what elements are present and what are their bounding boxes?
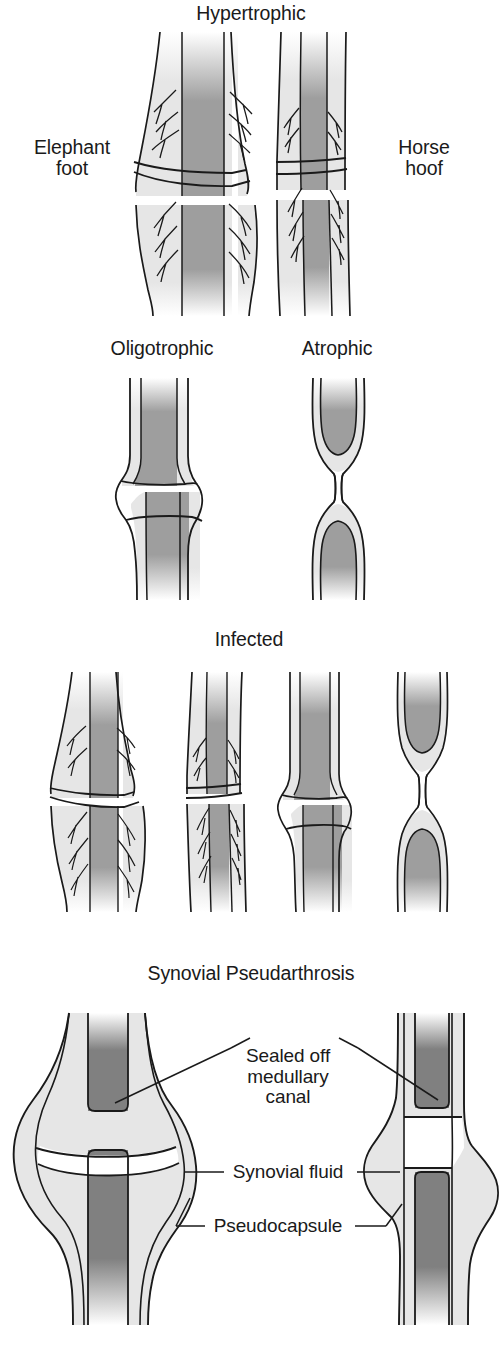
section-title-infected: Infected (189, 629, 309, 650)
atrophic-bone (312, 378, 364, 600)
nonunion-classification-illustration (0, 0, 502, 1354)
callout-pseudocapsule: Pseudocapsule (203, 1216, 353, 1237)
infected-atrophic (397, 672, 447, 912)
infected-horse-hoof (186, 672, 246, 912)
infected-elephant-foot (50, 672, 145, 912)
horse-hoof-bone (276, 32, 350, 316)
callout-synovial-fluid: Synovial fluid (222, 1162, 354, 1183)
section-title-atrophic: Atrophic (282, 338, 392, 359)
section-title-synovial-pseudarthrosis: Synovial Pseudarthrosis (111, 963, 391, 984)
synovial-ap-view (14, 1013, 197, 1325)
synovial-lateral-view (364, 1013, 498, 1325)
section-title-oligotrophic: Oligotrophic (92, 338, 232, 359)
section-title-hypertrophic: Hypertrophic (0, 3, 502, 24)
infected-group (50, 672, 448, 912)
callout-sealed-off-medullary-canal: Sealed off medullary canal (218, 1046, 358, 1108)
infected-oligotrophic (278, 672, 352, 912)
hypertrophic-group (134, 32, 350, 316)
oligotrophic-bone (116, 378, 203, 600)
elephant-foot-bone (134, 32, 257, 316)
label-horse-hoof: Horse hoof (366, 137, 482, 179)
oligotrophic-atrophic-group (116, 378, 365, 600)
label-elephant-foot: Elephant foot (12, 137, 132, 179)
